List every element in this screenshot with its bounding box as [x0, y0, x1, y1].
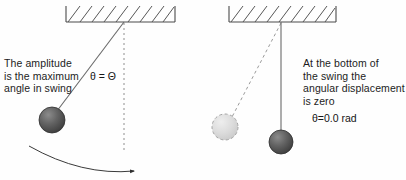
- pendulum-bob-left: [39, 107, 65, 133]
- right-angle-label: θ=0.0 rad: [312, 112, 357, 124]
- ceiling-hatching-right: [231, 6, 335, 22]
- swing-direction-arrow: [29, 146, 134, 172]
- left-angle-label: θ = Θ: [90, 70, 116, 82]
- ghost-pendulum-bob-right: [212, 114, 238, 140]
- right-panel-caption: At the bottom of the swing the angular d…: [303, 57, 406, 107]
- pendulum-amplitude-diagram: The amplitude is the maximum angle in sw…: [0, 0, 406, 180]
- ghost-pendulum-rod-right: [232, 23, 281, 117]
- pendulum-bob-right: [269, 130, 293, 154]
- ceiling-right: [229, 6, 336, 22]
- left-panel-caption: The amplitude is the maximum angle in sw…: [4, 57, 100, 95]
- ceiling-hatching-left: [68, 6, 174, 22]
- ceiling-left: [66, 6, 175, 22]
